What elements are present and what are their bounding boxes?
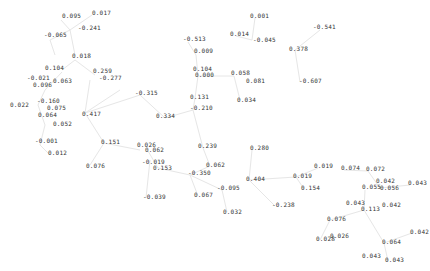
node-label: 0.113: [361, 205, 380, 212]
node-label: -0.241: [78, 24, 101, 31]
node-label: 0.404: [246, 175, 265, 182]
node-label: 0.062: [145, 146, 164, 153]
node-label: 0.014: [230, 30, 249, 37]
node-label: 0.056: [380, 184, 399, 191]
node-label: 0.055: [362, 183, 381, 190]
node-label: 0.072: [366, 165, 385, 172]
node-label: 0.058: [231, 69, 250, 76]
node-label: 0.067: [194, 191, 213, 198]
node-label: -0.065: [44, 31, 67, 38]
node-label: 0.001: [250, 12, 269, 19]
node-label: 0.074: [341, 164, 360, 171]
node-label: 0.104: [45, 64, 64, 71]
node-label: 0.081: [246, 77, 265, 84]
graph-edges: [0, 0, 430, 271]
node-label: 0.075: [47, 104, 66, 111]
node-label: 0.032: [223, 208, 242, 215]
node-label: 0.043: [362, 252, 381, 259]
node-label: 0.259: [93, 67, 112, 74]
graph-edge: [75, 60, 95, 75]
node-label: -0.315: [135, 89, 158, 96]
node-label: 0.012: [48, 149, 67, 156]
node-label: 0.153: [153, 164, 172, 171]
node-label: -0.277: [99, 74, 122, 81]
node-label: 0.076: [86, 162, 105, 169]
node-label: 0.096: [33, 81, 52, 88]
node-label: 0.154: [301, 184, 320, 191]
node-label: -0.607: [299, 77, 322, 84]
node-label: 0.034: [237, 96, 256, 103]
node-label: -0.513: [183, 35, 206, 42]
node-label: 0.062: [206, 161, 225, 168]
node-label: 0.280: [250, 144, 269, 151]
node-label: 0.043: [408, 179, 427, 186]
node-label: 0.076: [327, 215, 346, 222]
node-label: 0.064: [38, 111, 57, 118]
node-label: 0.151: [101, 138, 120, 145]
node-label: 0.052: [53, 120, 72, 127]
node-label: 0.019: [314, 162, 333, 169]
node-label: 0.064: [382, 238, 401, 245]
node-label: 0.018: [72, 52, 91, 59]
node-label: 0.042: [410, 228, 429, 235]
node-label: 0.417: [82, 110, 101, 117]
node-label: 0.042: [382, 201, 401, 208]
node-label: -0.001: [35, 137, 58, 144]
graph-edge: [61, 20, 70, 30]
node-label: 0.022: [10, 101, 29, 108]
node-label: 0.019: [293, 172, 312, 179]
node-label: -0.045: [253, 36, 276, 43]
node-label: 0.095: [62, 12, 81, 19]
node-label: -0.210: [190, 104, 213, 111]
node-label: 0.009: [194, 47, 213, 54]
node-label: 0.334: [156, 112, 175, 119]
graph-edge: [85, 80, 90, 113]
node-label: -0.039: [143, 193, 166, 200]
graph-edge: [364, 210, 384, 243]
node-label: -0.238: [272, 201, 295, 208]
node-label: 0.026: [330, 232, 349, 239]
node-label: 0.131: [190, 93, 209, 100]
node-label: -0.350: [188, 169, 211, 176]
node-label: -0.095: [217, 184, 240, 191]
node-label: 0.000: [195, 71, 214, 78]
node-label: 0.239: [198, 142, 217, 149]
node-label: -0.160: [37, 97, 60, 104]
node-label: 0.043: [385, 256, 404, 263]
network-graph: 0.0950.017-0.241-0.0650.0180.1040.259-0.…: [0, 0, 430, 271]
node-label: 0.378: [289, 45, 308, 52]
node-label: -0.541: [313, 23, 336, 30]
graph-edge: [50, 40, 55, 55]
node-label: 0.063: [53, 77, 72, 84]
node-label: -0.021: [27, 74, 50, 81]
node-label: 0.017: [92, 9, 111, 16]
